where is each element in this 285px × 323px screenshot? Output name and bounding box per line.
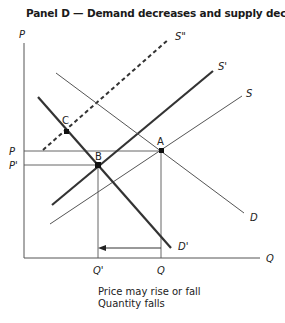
point-c-label: C (62, 115, 69, 126)
quantity-q-label: Q (157, 265, 165, 276)
caption: Price may rise or fall Quantity falls (98, 286, 201, 310)
point-b-marker (95, 162, 101, 168)
demand-curve-d (56, 73, 244, 213)
supply-curve-s (50, 96, 242, 224)
supply-demand-diagram: P Q P P' Q' Q S S' S" D D' A B C (0, 0, 285, 323)
price-p-prime-label: P' (9, 160, 18, 171)
quantity-q-prime-label: Q' (93, 265, 104, 276)
point-a-marker (159, 148, 164, 153)
arrowhead-icon (98, 245, 106, 251)
price-p-label: P (9, 146, 16, 157)
curve-s-label: S (246, 88, 253, 99)
point-a-label: A (157, 136, 164, 147)
curve-s-prime-label: S' (218, 61, 227, 72)
point-c-marker (64, 129, 69, 134)
demand-curve-d-prime (38, 97, 171, 248)
supply-curve-s-double-prime (43, 39, 169, 150)
supply-curve-s-prime (52, 71, 213, 205)
price-axis-label: P (19, 29, 26, 40)
point-b-label: B (95, 151, 102, 162)
curve-d-label: D (250, 212, 258, 223)
caption-quantity: Quantity falls (98, 298, 201, 310)
caption-price: Price may rise or fall (98, 286, 201, 298)
curve-s-double-prime-label: S" (175, 31, 186, 42)
curve-d-prime-label: D' (178, 241, 188, 252)
quantity-axis-label: Q (266, 253, 274, 264)
